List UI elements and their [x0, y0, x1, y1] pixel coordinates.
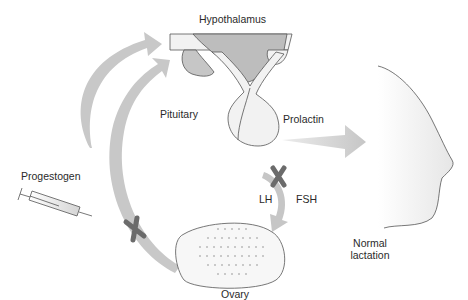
hormone-feedback-diagram — [0, 0, 468, 300]
prolactin-arrow — [282, 125, 366, 158]
pituitary-label: Pituitary — [160, 108, 198, 120]
normal-lactation-label: Normal lactation — [345, 237, 395, 261]
normal-lactation-line1: Normal — [345, 237, 395, 249]
lh-label: LH — [259, 193, 272, 205]
progestogen-label: Progestogen — [21, 170, 81, 182]
feedback-arrow-inner — [109, 58, 180, 273]
ovary-label: Ovary — [221, 288, 249, 300]
hypothalamus-label: Hypothalamus — [199, 13, 266, 25]
fsh-label: FSH — [296, 193, 317, 205]
block-x-icon — [273, 168, 284, 185]
hypothalamus-pituitary — [170, 34, 292, 146]
prolactin-label: Prolactin — [283, 113, 324, 125]
syringe-icon — [18, 188, 92, 216]
normal-lactation-line2: lactation — [345, 249, 395, 261]
breast-outline — [378, 66, 453, 228]
ovary — [176, 223, 285, 288]
